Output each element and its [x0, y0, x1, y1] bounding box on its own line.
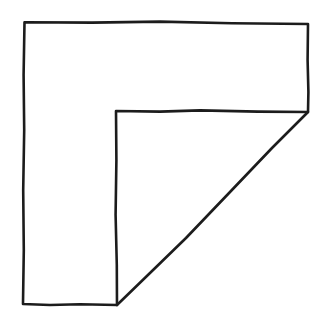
figure-canvas — [0, 0, 326, 323]
hand-drawn-figure — [0, 0, 326, 323]
paper-background — [0, 0, 326, 323]
